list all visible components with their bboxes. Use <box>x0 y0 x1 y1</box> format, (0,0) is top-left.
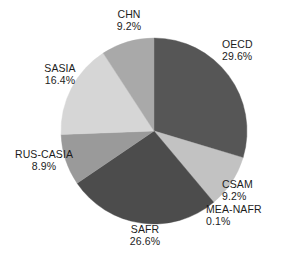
pie-chart-canvas <box>0 0 292 266</box>
pie-chart: CHN 9.2% OECD 29.6% SASIA 16.4% RUS-CASI… <box>0 0 292 266</box>
pie-slice-group <box>61 38 247 224</box>
